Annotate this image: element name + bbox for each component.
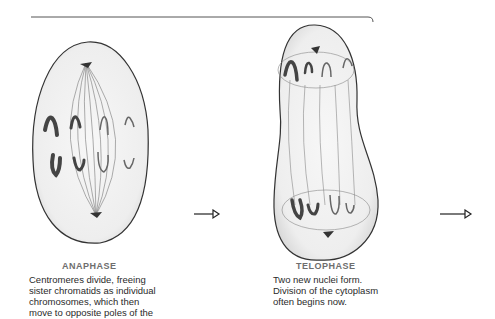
anaphase-cell — [33, 42, 149, 243]
stage-title-anaphase: ANAPHASE — [62, 261, 117, 271]
arrow-right-icon — [440, 210, 471, 218]
mitosis-diagram — [0, 0, 495, 319]
stage-title-telophase: TELOPHASE — [296, 261, 356, 271]
stage-description-telophase: Two new nuclei form. Division of the cyt… — [273, 274, 378, 307]
bracket-line — [31, 17, 373, 22]
arrow-right-icon — [194, 210, 219, 218]
telophase-cell — [274, 25, 378, 260]
stage-description-anaphase: Centromeres divide, freeing sister chrom… — [29, 274, 156, 318]
